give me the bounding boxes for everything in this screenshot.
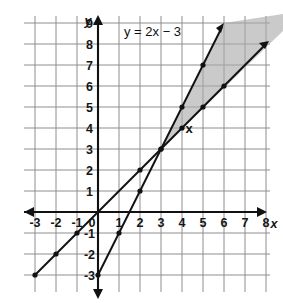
graph-figure: -3 -2 -1 0 1 2 3 4 5 6 7 8 9 8 7 6 5 4 3… — [0, 0, 283, 303]
x-tick-label: 3 — [158, 216, 165, 230]
y-tick-label: 4 — [86, 122, 93, 136]
y-tick-label: 2 — [86, 164, 93, 178]
x-tick-label: 1 — [116, 216, 123, 230]
y-tick-label: 5 — [86, 101, 93, 115]
y-tick-label: 3 — [86, 143, 93, 157]
point-marker-x: x — [185, 121, 193, 136]
y-tick-labels: 9 8 7 6 5 4 3 2 1 -1 -2 -3 — [84, 17, 95, 283]
coordinate-plane: -3 -2 -1 0 1 2 3 4 5 6 7 8 9 8 7 6 5 4 3… — [0, 0, 283, 303]
y-tick-label: 1 — [86, 185, 93, 199]
x-tick-label: 8 — [263, 216, 270, 230]
x-tick-label: 2 — [137, 216, 144, 230]
equation-label: y = 2x − 3 — [124, 24, 181, 39]
x-tick-label: -2 — [50, 216, 61, 230]
x-tick-label: -1 — [71, 216, 82, 230]
y-tick-label: 7 — [86, 59, 93, 73]
y-tick-label: 6 — [86, 80, 93, 94]
y-tick-label: -1 — [84, 227, 95, 241]
x-tick-label: 6 — [221, 216, 228, 230]
x-tick-labels: -3 -2 -1 0 1 2 3 4 5 6 7 8 — [29, 216, 269, 230]
y-axis-label: y — [84, 14, 93, 28]
x-tick-label: 5 — [200, 216, 207, 230]
x-axis-label: x — [270, 217, 279, 231]
line-y-equals-x — [32, 41, 269, 278]
x-tick-label: -3 — [29, 216, 40, 230]
y-tick-label: 8 — [86, 38, 93, 52]
y-tick-label: -3 — [84, 269, 95, 283]
x-tick-label: 4 — [179, 216, 186, 230]
x-tick-label: 7 — [242, 216, 249, 230]
y-tick-label: -2 — [84, 248, 95, 262]
